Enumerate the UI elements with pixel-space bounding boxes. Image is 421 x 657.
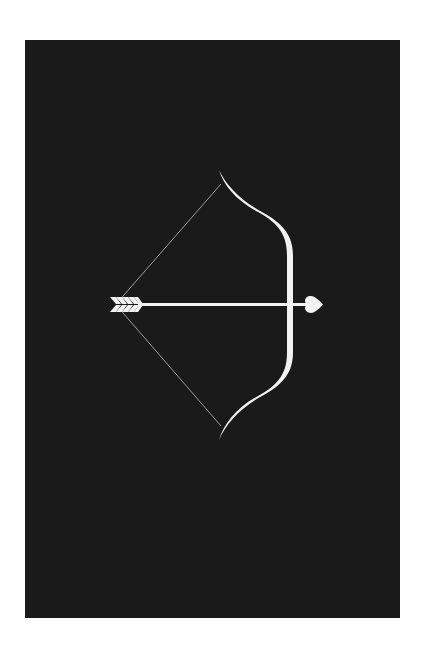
cupid-bow-illustration [0,0,421,657]
arrow-icon [138,303,308,306]
